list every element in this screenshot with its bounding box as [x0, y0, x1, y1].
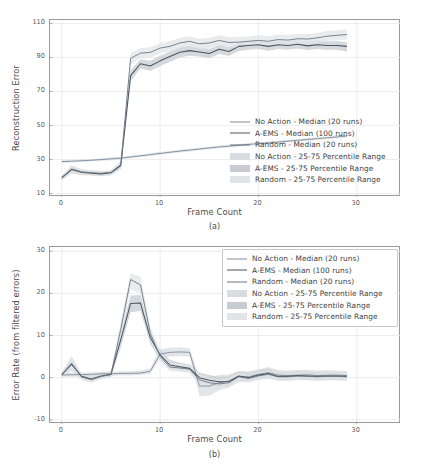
- legend-item: No Action - 25-75 Percentile Range: [230, 151, 393, 163]
- legend-line-swatch-no_action: [227, 254, 247, 263]
- x-tick-label: 10: [149, 199, 169, 207]
- legend-line-swatch-aems: [230, 129, 250, 138]
- legend-item: Random - 25-75 Percentile Range: [227, 311, 392, 323]
- legend-item-label: A-EMS - Median (100 runs): [252, 266, 352, 275]
- y-tick-label: 30: [25, 246, 45, 254]
- legend-item-label: Random - 25-75 Percentile Range: [255, 175, 381, 184]
- legend-item-label: Random - Median (20 runs): [255, 140, 357, 149]
- legend-band-swatch-random: [227, 312, 247, 321]
- y-tick-label: 110: [25, 18, 45, 26]
- subfigure-caption-a: (a): [0, 222, 429, 231]
- legend-item: A-EMS - 25-75 Percentile Range: [227, 299, 392, 311]
- y-tick-label: -10: [25, 415, 45, 423]
- x-tick-label: 20: [247, 426, 267, 434]
- subfigure-caption-b: (b): [0, 450, 429, 459]
- legend-item-label: No Action - 25-75 Percentile Range: [255, 152, 386, 161]
- legend-band-swatch-aems: [227, 301, 247, 310]
- legend-item: No Action - 25-75 Percentile Range: [227, 288, 392, 300]
- legend-item-label: A-EMS - 25-75 Percentile Range: [252, 301, 370, 310]
- legend-item-label: No Action - 25-75 Percentile Range: [252, 289, 383, 298]
- y-tick-label: 10: [25, 331, 45, 339]
- legend-item-label: A-EMS - Median (100 runs): [255, 129, 355, 138]
- legend-band-swatch-aems: [230, 164, 250, 173]
- y-tick-label: 10: [25, 189, 45, 197]
- subfigure-b: Error Rate (from filtered errors) No Act…: [0, 236, 429, 475]
- y-axis-label-b: Error Rate (from filtered errors): [11, 269, 21, 400]
- legend-item: Random - Median (20 runs): [230, 139, 393, 151]
- x-tick-label: 10: [149, 426, 169, 434]
- legend-item-label: No Action - Median (20 runs): [252, 254, 359, 263]
- x-tick-label: 0: [51, 199, 71, 207]
- x-tick-label: 30: [346, 426, 366, 434]
- legend-band-swatch-no_action: [227, 289, 247, 298]
- legend-a: No Action - Median (20 runs)A-EMS - Medi…: [226, 113, 398, 189]
- legend-item: No Action - Median (20 runs): [227, 253, 392, 265]
- figure-root: Reconstruction Error No Action - Median …: [0, 0, 429, 475]
- legend-line-swatch-no_action: [230, 117, 250, 126]
- legend-item-label: Random - Median (20 runs): [252, 277, 354, 286]
- legend-line-swatch-aems: [227, 266, 247, 275]
- y-tick-label: 90: [25, 52, 45, 60]
- y-tick-label: 50: [25, 121, 45, 129]
- x-axis-label-b: Frame Count: [0, 434, 429, 444]
- legend-b: No Action - Median (20 runs)A-EMS - Medi…: [222, 249, 398, 327]
- x-tick-label: 30: [346, 199, 366, 207]
- y-tick-label: 70: [25, 86, 45, 94]
- legend-band-swatch-no_action: [230, 152, 250, 161]
- legend-item-label: Random - 25-75 Percentile Range: [252, 312, 378, 321]
- legend-item-label: No Action - Median (20 runs): [255, 117, 362, 126]
- legend-line-swatch-random: [230, 140, 250, 149]
- legend-line-swatch-random: [227, 277, 247, 286]
- subfigure-a: Reconstruction Error No Action - Median …: [0, 0, 429, 238]
- legend-item: Random - Median (20 runs): [227, 276, 392, 288]
- y-tick-label: 0: [25, 373, 45, 381]
- legend-item: A-EMS - Median (100 runs): [227, 265, 392, 277]
- y-axis-label-a: Reconstruction Error: [11, 65, 21, 151]
- legend-item: No Action - Median (20 runs): [230, 116, 393, 128]
- x-tick-label: 20: [247, 199, 267, 207]
- y-tick-label: 20: [25, 288, 45, 296]
- legend-item: A-EMS - 25-75 Percentile Range: [230, 162, 393, 174]
- legend-item: A-EMS - Median (100 runs): [230, 128, 393, 140]
- x-axis-label-a: Frame Count: [0, 207, 429, 217]
- x-tick-label: 0: [51, 426, 71, 434]
- legend-item-label: A-EMS - 25-75 Percentile Range: [255, 164, 373, 173]
- legend-item: Random - 25-75 Percentile Range: [230, 174, 393, 186]
- legend-band-swatch-random: [230, 175, 250, 184]
- y-tick-label: 30: [25, 155, 45, 163]
